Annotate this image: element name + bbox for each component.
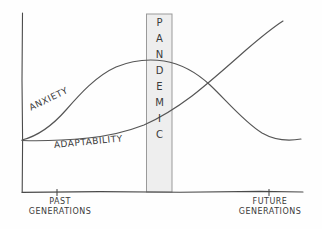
past-generations-line2: GENERATIONS [12,208,108,216]
pandemic-letter: M [155,98,164,108]
x-axis-label-past-generations: PAST GENERATIONS [12,198,108,216]
pandemic-letter: D [156,66,164,76]
pandemic-letter: E [156,82,162,92]
x-axis-line [22,191,303,192]
past-generations-line1: PAST [49,197,71,206]
pandemic-band-label: P A N D E M I C [147,18,172,146]
pandemic-letter: N [156,50,163,60]
pandemic-letter: I [158,114,161,124]
pandemic-letter: C [156,130,163,140]
x-axis-label-future-generations: FUTURE GENERATIONS [222,198,318,216]
future-generations-line1: FUTURE [253,197,288,206]
future-generations-line2: GENERATIONS [222,208,318,216]
pandemic-letter: P [156,18,162,28]
pandemic-letter: A [156,34,163,44]
hand-drawn-line-chart: ANXIETY ADAPTABILITY P A N D E M I C PAS… [0,0,322,229]
y-axis-line [22,13,23,192]
